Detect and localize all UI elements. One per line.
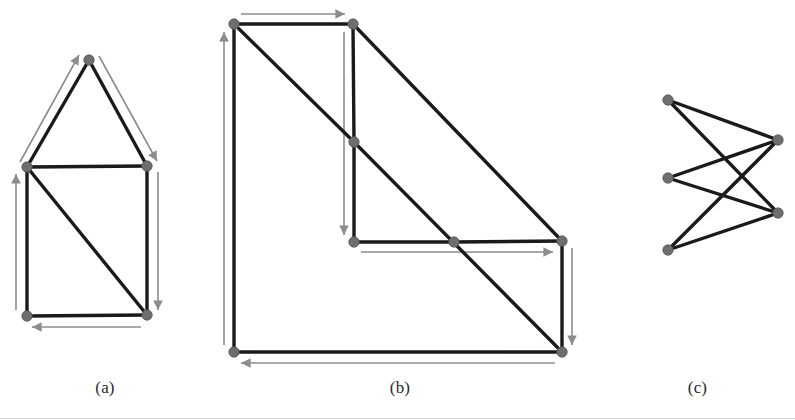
graph-edge	[89, 60, 147, 166]
graph-edge	[27, 166, 147, 167]
figure-b-graph	[200, 0, 600, 370]
figure-a-nodes	[22, 55, 152, 321]
graph-node-apex[interactable]	[84, 55, 94, 65]
graph-node-left-top[interactable]	[663, 95, 673, 105]
graph-edge	[668, 140, 778, 178]
figure-panel-b: (b)	[200, 0, 600, 420]
graph-node-inner-corner[interactable]	[349, 237, 359, 247]
graph-node-right-upper[interactable]	[557, 236, 567, 246]
graph-edge	[27, 60, 89, 167]
graph-edge	[27, 315, 147, 316]
arrow-down-right-slope	[99, 56, 157, 161]
graph-edge	[27, 167, 147, 315]
graph-edge	[668, 100, 778, 140]
figure-page: (a) (b) (c)	[0, 0, 795, 420]
figure-c-graph	[600, 0, 795, 370]
figure-a-edges	[27, 60, 147, 316]
graph-node-top-left[interactable]	[229, 19, 239, 29]
arrow-up-left-slope	[20, 55, 79, 162]
graph-node-right-upper[interactable]	[773, 135, 783, 145]
graph-node-mid-left[interactable]	[22, 162, 32, 172]
figure-b-edges	[234, 24, 562, 352]
figure-a-caption: (a)	[0, 378, 210, 398]
graph-node-top-right[interactable]	[348, 19, 358, 29]
graph-edge	[353, 24, 562, 241]
graph-node-bottom-right[interactable]	[142, 310, 152, 320]
graph-node-bottom-left[interactable]	[22, 311, 32, 321]
figure-panel-c: (c)	[600, 0, 795, 420]
graph-edge	[454, 241, 562, 242]
graph-node-bottom-left[interactable]	[229, 347, 239, 357]
figure-a-graph	[0, 0, 210, 370]
graph-node-mid-edge[interactable]	[449, 237, 459, 247]
page-bottom-divider	[0, 418, 795, 419]
figure-c-caption: (c)	[600, 378, 795, 398]
graph-edge	[353, 24, 354, 142]
graph-node-left-middle[interactable]	[663, 173, 673, 183]
graph-node-right-lower[interactable]	[773, 208, 783, 218]
graph-node-right-lower[interactable]	[557, 347, 567, 357]
graph-node-mid-right[interactable]	[142, 161, 152, 171]
graph-edge	[234, 24, 354, 142]
graph-node-notch[interactable]	[349, 137, 359, 147]
figure-b-caption: (b)	[200, 378, 600, 398]
figure-a-traversal-arrows	[16, 55, 158, 327]
figure-panel-a: (a)	[0, 0, 210, 420]
graph-edge	[354, 142, 562, 352]
figure-c-edges	[668, 100, 778, 250]
graph-node-left-bottom[interactable]	[663, 245, 673, 255]
